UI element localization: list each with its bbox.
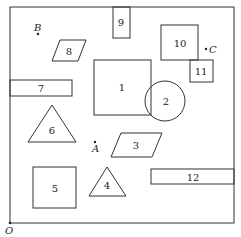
point-b: B [33, 22, 41, 35]
shape-3-label: 3 [133, 140, 139, 151]
point-b-label: B [33, 22, 41, 33]
shape-1-label: 1 [119, 82, 125, 93]
shape-2-label: 2 [163, 96, 169, 107]
shape-4-label: 4 [104, 180, 110, 191]
diagram-canvas: O 1 2 3 4 5 6 7 8 9 [0, 0, 241, 237]
shape-1-square: 1 [94, 60, 151, 115]
shape-11-square: 11 [190, 60, 213, 82]
point-c-label: C [209, 44, 217, 55]
shape-3-parallelogram: 3 [111, 133, 162, 157]
point-c: C [205, 44, 217, 55]
shape-10-square: 10 [161, 25, 198, 60]
shape-5-square: 5 [33, 167, 76, 208]
point-a: A [91, 141, 99, 154]
shape-7-label: 7 [38, 83, 44, 94]
shape-8-label: 8 [66, 46, 72, 57]
shape-9-label: 9 [118, 17, 124, 28]
shape-8-parallelogram: 8 [52, 40, 86, 61]
shape-12-label: 12 [187, 172, 200, 183]
origin-label: O [5, 225, 13, 236]
point-a-label: A [91, 143, 99, 154]
shape-12-rectangle: 12 [151, 169, 234, 184]
shape-6-triangle: 6 [28, 105, 76, 142]
shape-9-rectangle: 9 [113, 7, 130, 38]
shape-4-triangle: 4 [89, 167, 126, 196]
shape-7-rectangle: 7 [10, 80, 72, 96]
shape-10-label: 10 [174, 38, 187, 49]
shape-6-label: 6 [49, 125, 55, 136]
shape-11-label: 11 [195, 66, 208, 77]
origin-point [9, 222, 12, 225]
shape-5-label: 5 [52, 183, 58, 194]
